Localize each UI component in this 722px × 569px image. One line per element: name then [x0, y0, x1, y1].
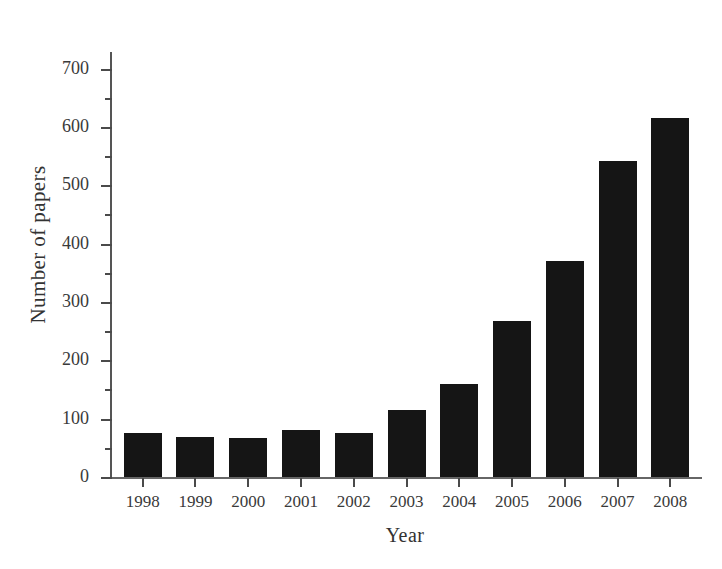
x-axis-title: Year: [110, 524, 700, 547]
y-axis-tick: 300: [101, 302, 112, 304]
bar: [546, 261, 584, 477]
y-axis-tick: 500: [101, 185, 112, 187]
bar: [124, 433, 162, 477]
y-axis-minor-tick: [105, 448, 112, 450]
x-axis-tick: [406, 478, 408, 487]
x-axis-tick: [353, 478, 355, 487]
y-axis-minor-tick: [105, 389, 112, 391]
x-axis-tick-label: 2003: [377, 492, 437, 512]
y-axis-tick-label: 400: [62, 233, 89, 254]
x-axis-tick: [247, 478, 249, 487]
x-axis-tick-label: 2007: [588, 492, 648, 512]
bar: [651, 118, 689, 477]
bar: [493, 321, 531, 477]
bar: [282, 430, 320, 477]
bar: [599, 161, 637, 477]
y-axis-tick: 100: [101, 419, 112, 421]
y-axis-minor-tick: [105, 273, 112, 275]
y-axis-tick-label: 500: [62, 174, 89, 195]
y-axis-tick-label: 700: [62, 58, 89, 79]
bar: [176, 437, 214, 477]
x-axis-tick: [300, 478, 302, 487]
y-axis-minor-tick: [105, 214, 112, 216]
x-axis-tick: [194, 478, 196, 487]
x-axis-tick: [458, 478, 460, 487]
bar: [388, 410, 426, 477]
x-axis-tick: [617, 478, 619, 487]
x-axis-tick: [669, 478, 671, 487]
bar: [335, 433, 373, 477]
x-axis-tick-label: 2001: [271, 492, 331, 512]
y-axis-title: Number of papers: [26, 115, 51, 375]
x-axis-tick-label: 2000: [218, 492, 278, 512]
x-axis-tick: [564, 478, 566, 487]
y-axis-tick-label: 600: [62, 116, 89, 137]
x-axis-tick: [142, 478, 144, 487]
x-axis-tick-label: 2006: [535, 492, 595, 512]
x-axis-tick-label: 1998: [113, 492, 173, 512]
y-axis-tick: 200: [101, 360, 112, 362]
x-axis-tick-label: 1999: [165, 492, 225, 512]
bar: [440, 384, 478, 477]
x-axis-tick-label: 2005: [482, 492, 542, 512]
y-axis-minor-tick: [105, 98, 112, 100]
bar: [229, 438, 267, 477]
x-axis-tick-label: 2004: [429, 492, 489, 512]
y-axis-tick: 400: [101, 244, 112, 246]
y-axis-minor-tick: [105, 331, 112, 333]
bar-chart-figure: Number of papers 0100200300400500600700 …: [0, 0, 722, 569]
x-axis-tick-label: 2008: [640, 492, 700, 512]
x-axis-tick-label: 2002: [324, 492, 384, 512]
y-axis-tick-label: 100: [62, 408, 89, 429]
y-axis-tick-label: 300: [62, 291, 89, 312]
plot-area: 0100200300400500600700 19981999200020012…: [110, 52, 702, 478]
x-axis-tick: [511, 478, 513, 487]
y-axis-tick-label: 200: [62, 349, 89, 370]
y-axis-tick: 0: [101, 477, 112, 479]
y-axis-tick-label: 0: [80, 466, 89, 487]
y-axis-minor-tick: [105, 156, 112, 158]
y-axis-line: [110, 52, 112, 478]
y-axis-tick: 600: [101, 127, 112, 129]
y-axis-tick: 700: [101, 69, 112, 71]
